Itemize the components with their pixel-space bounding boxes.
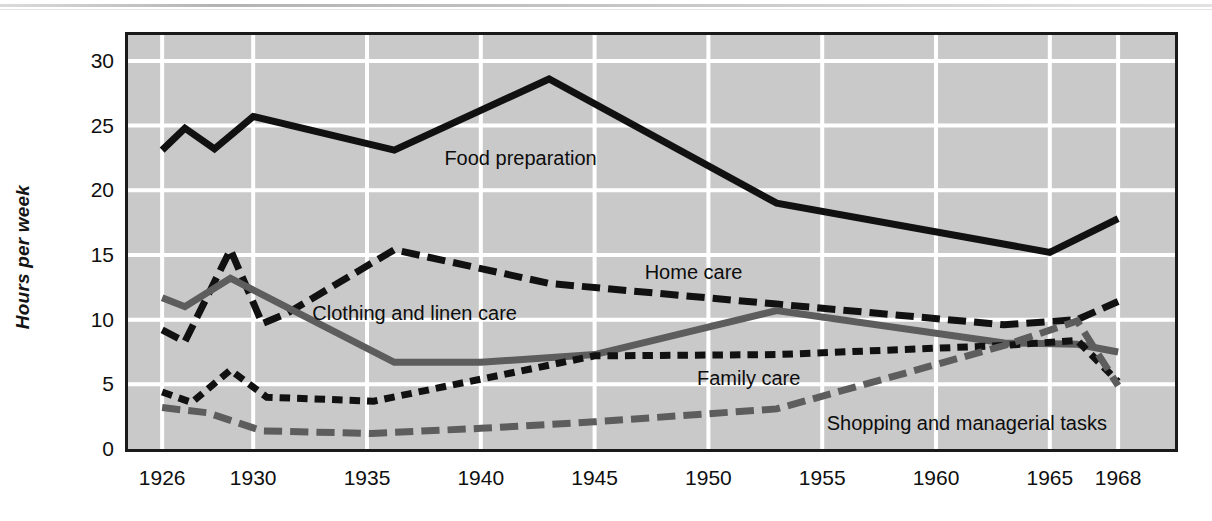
series-label-shopping-and-managerial-tasks: Shopping and managerial tasks: [827, 413, 1107, 433]
series-line-food-preparation: [162, 79, 1118, 252]
plot-svg: [128, 35, 1175, 449]
x-tick-label-1945: 1945: [550, 466, 640, 490]
x-tick-label-1955: 1955: [777, 466, 867, 490]
x-tick-label-1930: 1930: [208, 466, 298, 490]
series-line-home-care: [162, 250, 1118, 342]
x-tick-label-1968: 1968: [1073, 466, 1163, 490]
series-label-home-care: Home care: [645, 262, 743, 282]
x-tick-label-1960: 1960: [891, 466, 981, 490]
x-tick-label-1950: 1950: [663, 466, 753, 490]
x-tick-label-1935: 1935: [322, 466, 412, 490]
plot-area: Food preparationHome careClothing and li…: [125, 32, 1178, 452]
x-tick-label-1940: 1940: [436, 466, 526, 490]
chart-figure: Hours per week 051015202530 192619301935…: [0, 0, 1212, 521]
series-label-clothing-and-linen-care: Clothing and linen care: [312, 303, 517, 323]
series-line-family-care: [162, 340, 1118, 402]
x-tick-label-1926: 1926: [117, 466, 207, 490]
series-label-family-care: Family care: [697, 368, 800, 388]
series-label-food-preparation: Food preparation: [444, 148, 596, 168]
